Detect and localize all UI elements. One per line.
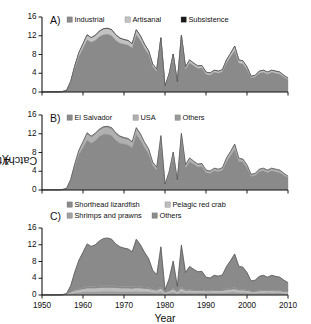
legend-swatch [152, 213, 157, 218]
legend-swatch [133, 115, 138, 120]
panel-letter: A) [50, 14, 61, 26]
legend-swatch [175, 115, 180, 120]
y-tick-label: 8 [32, 257, 37, 266]
y-tick-label: 8 [32, 50, 37, 59]
legend-swatch [181, 17, 186, 22]
x-tick-label: 2010 [279, 301, 298, 310]
legend-label: Industrial [74, 15, 104, 24]
panel-c: 04812161950196019701980199020002010C)Sho… [0, 198, 311, 324]
panel-plot: 0481216A)IndustrialArtisanalSubsistence [0, 0, 311, 100]
legend-label: Shrimps and prawns [74, 211, 142, 220]
y-tick-label: 16 [27, 223, 37, 232]
legend-swatch [67, 202, 72, 207]
x-tick-label: 1950 [33, 301, 52, 310]
y-tick-label: 0 [32, 290, 37, 299]
legend-swatch [67, 213, 72, 218]
legend-label: Others [159, 211, 181, 220]
y-tick-label: 12 [27, 129, 37, 138]
legend-label: Others [182, 113, 204, 122]
legend-label: El Salvador [74, 113, 112, 122]
legend-swatch [67, 115, 72, 120]
panel-b: 0481216B)El SalvadorUSAOthers [0, 100, 311, 198]
legend-label: Shorthead lizardfish [74, 200, 139, 209]
panel-plot: 04812161950196019701980199020002010C)Sho… [0, 198, 311, 324]
legend-swatch [67, 17, 72, 22]
legend-swatch [125, 17, 130, 22]
y-tick-label: 16 [27, 110, 37, 119]
y-tick-label: 0 [32, 87, 37, 96]
x-tick-label: 1960 [74, 301, 93, 310]
panel-a: 0481216A)IndustrialArtisanalSubsistence [0, 0, 311, 100]
legend-label: Artisanal [132, 15, 161, 24]
legend-label: USA [140, 113, 155, 122]
y-tick-label: 16 [27, 12, 37, 21]
y-tick-label: 0 [32, 185, 37, 194]
legend-label: Subsistence [188, 15, 228, 24]
x-tick-label: 1990 [197, 301, 216, 310]
y-tick-label: 8 [32, 148, 37, 157]
x-tick-label: 1970 [115, 301, 134, 310]
x-tick-label: 1980 [156, 301, 175, 310]
panel-plot: 0481216B)El SalvadorUSAOthers [0, 100, 311, 198]
y-tick-label: 4 [32, 68, 37, 77]
x-axis-title: Year [154, 312, 176, 324]
panel-letter: B) [50, 112, 61, 124]
panel-letter: C) [50, 210, 61, 222]
figure-catch-reconstruction: Catch (t • 104) 0481216A)IndustrialArtis… [0, 0, 311, 324]
y-tick-label: 4 [32, 273, 37, 282]
y-tick-label: 4 [32, 166, 37, 175]
x-tick-label: 2000 [238, 301, 257, 310]
y-tick-label: 12 [27, 240, 37, 249]
legend-label: Pelagic red crab [172, 200, 225, 209]
y-tick-label: 12 [27, 31, 37, 40]
legend-swatch [165, 202, 170, 207]
